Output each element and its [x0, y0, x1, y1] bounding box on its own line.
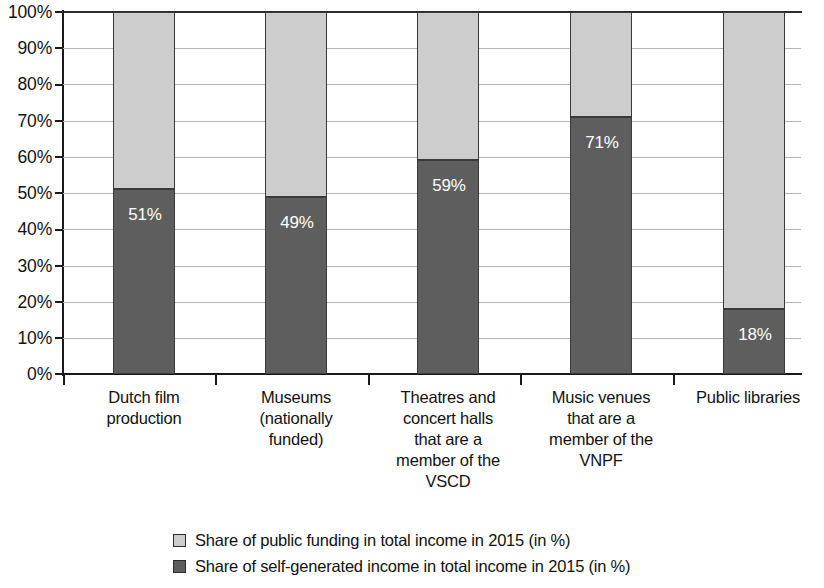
bar-data-label: 49% [266, 214, 328, 231]
legend-item-public-funding: Share of public funding in total income … [173, 527, 630, 553]
y-axis-label-80: 80% [18, 76, 52, 94]
bar-group-museums-nationally-funded: 49% [265, 12, 327, 374]
x-tick-1 [215, 374, 217, 385]
x-axis-category-label-dutch-film-production: Dutch film production [68, 387, 220, 429]
category-line: concert halls [372, 408, 524, 429]
legend-label-self-generated: Share of self-generated income in total … [195, 558, 630, 575]
bar-segment-public-funding [265, 12, 327, 197]
legend-swatch-public-funding [173, 534, 186, 547]
category-line: Theatres and [372, 387, 524, 408]
chart-legend: Share of public funding in total income … [173, 527, 630, 579]
x-tick-0 [63, 374, 65, 385]
category-line: Public libraries [672, 387, 824, 408]
bar-data-label: 71% [571, 134, 633, 151]
category-line: production [68, 408, 220, 429]
y-axis-label-0: 0% [27, 366, 52, 384]
legend-label-public-funding: Share of public funding in total income … [195, 532, 570, 549]
legend-item-self-generated: Share of self-generated income in total … [173, 553, 630, 579]
stacked-bar-chart: 100% 90% 80% 70% 60% 50% 40% 30% 20% 10%… [0, 0, 824, 588]
x-axis-category-label-theatres-vscd: Theatres and concert halls that are a me… [372, 387, 524, 492]
bar-data-label: 51% [114, 206, 176, 223]
bar-segment-public-funding [113, 12, 175, 189]
category-line: Music venues [525, 387, 677, 408]
y-axis-label-70: 70% [18, 113, 52, 131]
category-line: (nationally [220, 408, 372, 429]
bar-data-label: 59% [418, 177, 480, 194]
bar-segment-self-generated: 71% [570, 117, 632, 374]
x-axis-category-label-museums: Museums (nationally funded) [220, 387, 372, 450]
category-line: that are a [525, 408, 677, 429]
category-line: that are a [372, 429, 524, 450]
bar-group-public-libraries: 18% [723, 12, 785, 374]
x-axis-category-label-music-venues-vnpf: Music venues that are a member of the VN… [525, 387, 677, 471]
x-axis-category-label-public-libraries: Public libraries [672, 387, 824, 408]
y-axis-label-60: 60% [18, 149, 52, 167]
category-line: Museums [220, 387, 372, 408]
bar-group-dutch-film-production: 51% [113, 12, 175, 374]
bar-segment-self-generated: 51% [113, 189, 175, 374]
category-line: VNPF [525, 450, 677, 471]
plot-area: 51% 49% 59% 71% 18% [63, 12, 801, 374]
x-tick-4 [673, 374, 675, 385]
category-line: member of the [372, 450, 524, 471]
category-line: VSCD [372, 471, 524, 492]
bar-segment-self-generated: 49% [265, 197, 327, 374]
y-axis-label-40: 40% [18, 221, 52, 239]
category-line: funded) [220, 429, 372, 450]
y-axis-label-20: 20% [18, 294, 52, 312]
y-axis-label-10: 10% [18, 330, 52, 348]
y-axis-label-30: 30% [18, 258, 52, 276]
bar-segment-self-generated: 18% [723, 309, 785, 374]
y-axis-label-100: 100% [8, 4, 52, 22]
bar-group-music-venues-vnpf: 71% [570, 12, 632, 374]
legend-swatch-self-generated [173, 560, 186, 573]
x-tick-3 [520, 374, 522, 385]
bar-group-theatres-concert-halls-vscd: 59% [417, 12, 479, 374]
y-axis-label-90: 90% [18, 40, 52, 58]
bar-segment-self-generated: 59% [417, 160, 479, 374]
x-tick-2 [368, 374, 370, 385]
bar-data-label: 18% [724, 326, 786, 343]
category-line: member of the [525, 429, 677, 450]
category-line: Dutch film [68, 387, 220, 408]
bar-segment-public-funding [417, 12, 479, 160]
y-axis-label-50: 50% [18, 185, 52, 203]
bar-segment-public-funding [723, 12, 785, 309]
bar-segment-public-funding [570, 12, 632, 117]
